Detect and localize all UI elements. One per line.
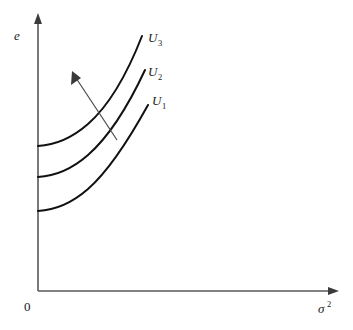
curve-u1 bbox=[38, 105, 148, 211]
x-axis bbox=[38, 287, 339, 295]
curve-u3 bbox=[38, 36, 142, 146]
curve-label-u1-subscript: 1 bbox=[162, 101, 166, 111]
curve-label-u2: U 2 bbox=[148, 64, 162, 82]
x-axis-label-exponent: 2 bbox=[327, 299, 331, 309]
y-axis-arrowhead-icon bbox=[34, 13, 42, 24]
curve-label-u3-subscript: 3 bbox=[158, 38, 162, 48]
plot-canvas: e 0 σ 2 U 3 U 2 U 1 bbox=[0, 0, 353, 330]
curve-label-u2-subscript: 2 bbox=[158, 72, 162, 82]
x-axis-label-base: σ bbox=[318, 301, 325, 316]
curve-label-u1: U 1 bbox=[152, 93, 166, 111]
y-axis-label: e bbox=[14, 28, 20, 43]
increasing-utility-arrow-shaft bbox=[76, 78, 117, 140]
indifference-curve-figure: e 0 σ 2 U 3 U 2 U 1 bbox=[0, 0, 353, 330]
y-axis bbox=[34, 13, 42, 291]
origin-label: 0 bbox=[24, 299, 31, 314]
increasing-utility-arrow bbox=[71, 71, 117, 140]
curve-label-u3: U 3 bbox=[148, 30, 162, 48]
x-axis-label: σ 2 bbox=[318, 299, 331, 316]
x-axis-arrowhead-icon bbox=[328, 287, 339, 295]
curve-u2 bbox=[38, 70, 145, 177]
